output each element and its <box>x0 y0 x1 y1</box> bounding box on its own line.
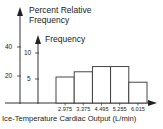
histogram-bar <box>111 67 129 103</box>
frequency-tick-label-5: 5 <box>27 75 31 82</box>
histogram-bar <box>56 77 74 103</box>
x-axis-title: Ice-Temperature Cardiac Output (L/min) <box>2 114 136 123</box>
percent-tick-label-20: 20 <box>5 72 12 79</box>
percent-axis-title-line2: Frequency <box>29 16 69 25</box>
histogram-bars <box>56 67 147 103</box>
percent-tick-label-40: 40 <box>5 43 12 50</box>
frequency-axis-arrow-icon <box>35 35 41 44</box>
x-tick-label: 5.255 <box>113 106 127 112</box>
histogram-bar <box>129 82 147 103</box>
percent-axis-arrow-icon <box>17 7 23 16</box>
histogram-bar <box>74 72 92 103</box>
x-tick-label: 3.375 <box>76 106 90 112</box>
histogram-bar <box>92 67 110 103</box>
frequency-axis-title: Frequency <box>45 35 85 44</box>
frequency-tick-label-10: 10 <box>24 49 31 56</box>
percent-axis-title-line1: Percent Relative <box>29 6 91 15</box>
x-tick-label: 6.015 <box>131 106 145 112</box>
x-tick-label: 2.975 <box>58 106 72 112</box>
x-axis-arrow-icon <box>148 100 157 106</box>
x-tick-label: 4.495 <box>95 106 109 112</box>
